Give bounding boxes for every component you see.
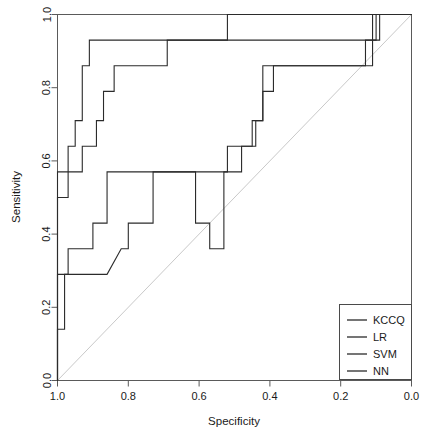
x-tick-label: 0.4 [262,390,277,402]
y-tick-label: 1.0 [41,7,53,22]
legend-label-svm: SVM [373,348,397,360]
y-tick-label: 0.8 [41,80,53,95]
chart-legend: KCCQLRSVMNN [340,305,412,380]
roc-chart-figure: 1.00.80.60.40.20.0 0.00.20.40.60.81.0 Sp… [0,0,428,445]
roc-plot-svg: 1.00.80.60.40.20.0 0.00.20.40.60.81.0 Sp… [0,0,428,445]
legend-label-lr: LR [373,331,387,343]
y-axis-ticks: 0.00.20.40.60.81.0 [41,7,58,388]
y-tick-label: 0.0 [41,373,53,388]
x-tick-label: 0.6 [191,390,206,402]
x-tick-label: 1.0 [50,390,65,402]
x-tick-label: 0.0 [404,390,419,402]
y-axis-title: Sensitivity [10,171,22,223]
y-tick-label: 0.6 [41,153,53,168]
x-axis-ticks: 1.00.80.60.40.20.0 [50,381,419,402]
y-tick-label: 0.2 [41,300,53,315]
x-tick-label: 0.2 [333,390,348,402]
y-tick-label: 0.4 [41,226,53,241]
legend-label-nn: NN [373,365,389,377]
legend-label-kccq: KCCQ [373,314,405,326]
x-tick-label: 0.8 [121,390,136,402]
x-axis-title: Specificity [208,415,260,427]
